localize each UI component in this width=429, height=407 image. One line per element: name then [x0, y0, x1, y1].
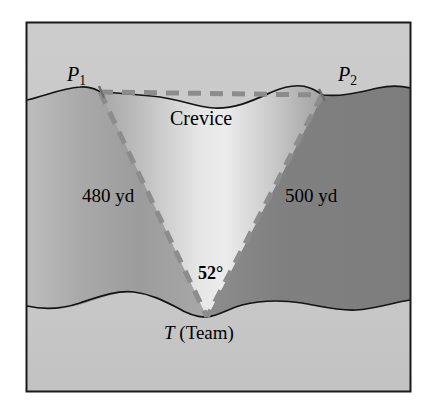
- label-team-point: T (Team): [164, 323, 234, 342]
- label-team-name: (Team): [179, 322, 234, 343]
- label-distance-500yd: 500 yd: [285, 186, 337, 205]
- crevice-diagram-svg: [0, 0, 429, 407]
- label-point-p2: P2: [338, 64, 357, 87]
- label-distance-480yd: 480 yd: [82, 186, 134, 205]
- label-point-p2-letter: P: [338, 63, 350, 85]
- label-point-p1-letter: P: [67, 63, 79, 85]
- triangle-side-base: [100, 92, 322, 95]
- label-point-p1-subscript: 1: [79, 73, 86, 88]
- figure-root: P1 P2 Crevice 480 yd 500 yd 52° T (Team): [0, 0, 429, 407]
- label-crevice: Crevice: [170, 108, 232, 128]
- label-angle-52deg: 52°: [198, 264, 223, 282]
- label-point-p1: P1: [67, 64, 86, 87]
- label-team-letter: T: [164, 322, 175, 343]
- label-point-p2-subscript: 2: [350, 73, 357, 88]
